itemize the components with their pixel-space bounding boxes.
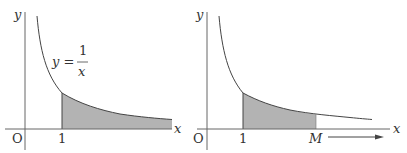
right-x-axis-label: x — [393, 121, 401, 136]
equation-lhs: y = — [51, 54, 74, 69]
right-graph: y x O 1 M — [193, 7, 401, 150]
right-arrow-icon — [328, 135, 384, 140]
right-y-axis-label: y — [195, 7, 204, 22]
equation-denominator: x — [78, 64, 86, 79]
right-tick-1-label: 1 — [239, 131, 247, 146]
equation-numerator: 1 — [79, 43, 87, 58]
left-tick-1-label: 1 — [58, 131, 66, 146]
right-curve-1-over-x — [219, 16, 372, 120]
equation-label: y = 1 x — [51, 43, 88, 79]
left-x-axis-label: x — [174, 121, 182, 136]
left-y-axis-label: y — [13, 7, 22, 22]
left-graph: y x O 1 y = 1 x — [5, 7, 182, 150]
left-shaded-area — [62, 93, 172, 129]
right-origin-label: O — [193, 131, 204, 146]
left-origin-label: O — [12, 131, 23, 146]
figure-canvas: y x O 1 y = 1 x y x O 1 M — [0, 0, 407, 153]
right-tick-m-label: M — [308, 131, 323, 146]
